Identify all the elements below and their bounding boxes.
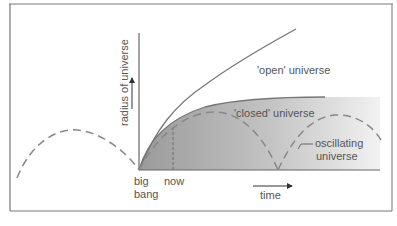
- y-axis-label: radius of universe: [118, 39, 130, 126]
- oscillating-universe-label-line2: universe: [316, 150, 358, 162]
- open-universe-label: 'open' universe: [257, 64, 330, 76]
- oscillating-arc-previous: [17, 130, 139, 178]
- diagram-canvas: [0, 0, 397, 226]
- big-bang-label-line2: bang: [134, 188, 158, 200]
- now-label: now: [164, 175, 184, 187]
- oscillating-universe-label-line1: oscillating: [315, 137, 363, 149]
- big-bang-label-line1: big: [134, 175, 149, 187]
- time-label: time: [260, 189, 281, 201]
- closed-universe-label: 'closed' universe: [234, 107, 315, 119]
